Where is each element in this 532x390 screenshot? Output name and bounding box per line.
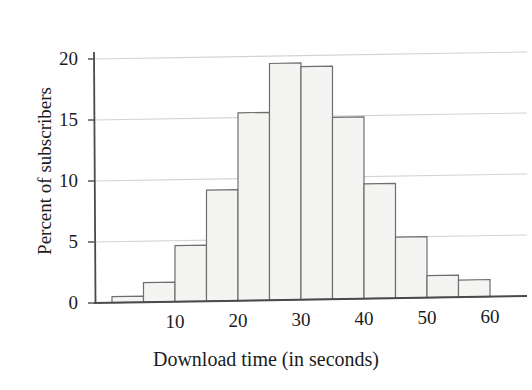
histogram-bar <box>270 63 302 300</box>
x-tick-label: 20 <box>218 311 258 330</box>
histogram-bar <box>427 275 459 297</box>
y-axis-title: Percent of subscribers <box>34 56 56 286</box>
y-axis-line <box>94 52 96 303</box>
x-tick-label: 30 <box>281 310 321 329</box>
histogram-bar <box>207 190 239 302</box>
histogram-bar <box>364 183 396 298</box>
axis-ticks-group <box>88 59 94 303</box>
bars-group <box>112 63 490 303</box>
histogram-bar <box>238 112 270 300</box>
histogram-figure: 05101520 102030405060 Percent of subscri… <box>0 0 532 390</box>
histogram-bar <box>301 66 333 300</box>
x-tick-label: 60 <box>470 307 510 326</box>
histogram-bar <box>144 282 176 302</box>
gridline-y-20 <box>94 52 527 59</box>
histogram-bar <box>459 280 491 298</box>
y-tick-label: 0 <box>38 293 78 312</box>
histogram-bar <box>333 117 365 299</box>
x-tick-label: 10 <box>155 312 195 331</box>
x-tick-label: 40 <box>344 309 384 328</box>
x-axis-title: Download time (in seconds) <box>0 348 532 371</box>
x-tick-label: 50 <box>407 308 447 327</box>
histogram-bar <box>396 237 428 299</box>
chart-canvas <box>0 0 532 390</box>
histogram-bar <box>175 245 207 302</box>
